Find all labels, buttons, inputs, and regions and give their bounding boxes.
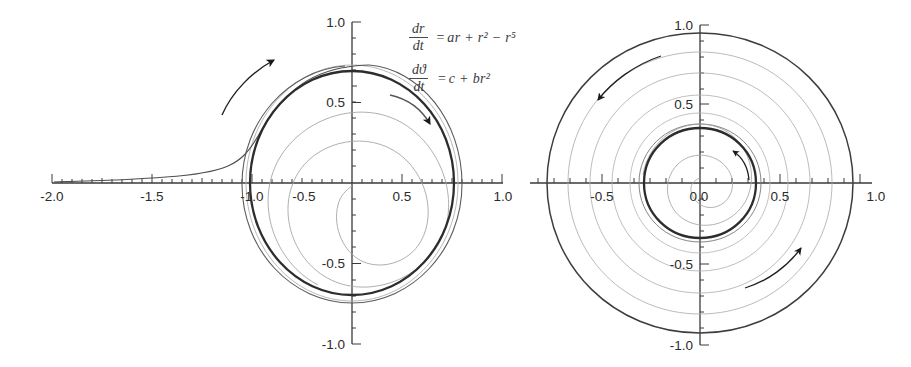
left-xtick-label-0: -2.0: [40, 189, 63, 204]
left-ytick-label-2: -0.5: [322, 256, 345, 271]
left-xtick-label-1: -1.5: [140, 189, 163, 204]
left-ytick-label-3: -1.0: [322, 337, 345, 352]
system-equations: dr dt = ar + r² − r⁵ dϑ dt = c + br²: [408, 22, 516, 94]
eq2-right-hand-side: c + br²: [449, 72, 490, 86]
left-xtick-label-4: 0.5: [393, 189, 412, 204]
right-ytick-label-3: -1.0: [670, 338, 693, 353]
dt-denominator: dt: [409, 37, 428, 53]
left-xtick-label-2: -1.0: [240, 189, 263, 204]
right-ytick-label-2: -0.5: [670, 257, 693, 272]
right-xtick-label-3: 1.0: [867, 189, 886, 204]
dr-numerator: dr: [408, 22, 428, 37]
left-xtick-label-5: 1.0: [494, 189, 513, 204]
left-trajectories: [54, 65, 462, 303]
right-ytick-label-0: 1.0: [674, 18, 693, 33]
equals-sign-1: =: [436, 31, 444, 45]
outer-arrow: [222, 60, 274, 115]
right-xtick-label-1: 0.0: [690, 189, 709, 204]
left-xtick-label-3: -0.5: [292, 189, 315, 204]
eq1-right-hand-side: ar + r² − r⁵: [447, 31, 516, 45]
equals-sign-2: =: [438, 72, 446, 86]
right-xtick-label-2: 0.5: [771, 189, 790, 204]
lower-right-arrow: [745, 248, 801, 288]
dtheta-dt-fraction: dϑ dt: [408, 63, 430, 94]
right-ytick-label-1: 0.5: [674, 97, 693, 112]
right-xtick-label-0: -0.5: [590, 189, 613, 204]
equation-dr-dt: dr dt = ar + r² − r⁵: [408, 22, 516, 53]
right-phase-portrait: -0.5 0.0 0.5 1.0 1.0 0.5 -0.5 -1.0: [530, 18, 885, 353]
figure-canvas: -2.0 -1.5 -1.0 -0.5 0.5 1.0 1.0 0.5 -0.5…: [0, 0, 911, 367]
dtheta-numerator: dϑ: [408, 63, 430, 78]
incoming-trajectory-curve: [54, 65, 369, 182]
left-x-ticks: [52, 174, 502, 183]
dt-denominator-2: dt: [409, 78, 428, 94]
left-ytick-label-0: 1.0: [326, 15, 345, 30]
equation-dtheta-dt: dϑ dt = c + br²: [408, 63, 516, 94]
dr-dt-fraction: dr dt: [408, 22, 428, 53]
left-ytick-label-1: 0.5: [326, 95, 345, 110]
